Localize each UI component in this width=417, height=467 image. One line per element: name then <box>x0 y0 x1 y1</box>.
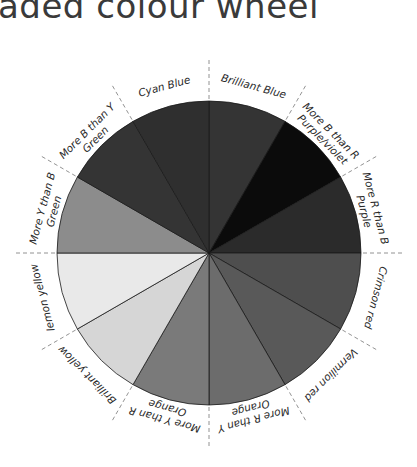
segment-label: Cyan Blue <box>137 73 192 98</box>
segment-label: lemon yellow <box>27 262 57 333</box>
divider-line <box>342 330 377 350</box>
divider-line <box>112 85 132 120</box>
segment-label: Brilliant Blue <box>220 71 288 100</box>
segment-label: Crimson red <box>362 265 390 330</box>
wheel-segments <box>57 101 361 405</box>
colour-wheel: Brilliant BlueMore B than RPurple/violet… <box>0 0 417 467</box>
